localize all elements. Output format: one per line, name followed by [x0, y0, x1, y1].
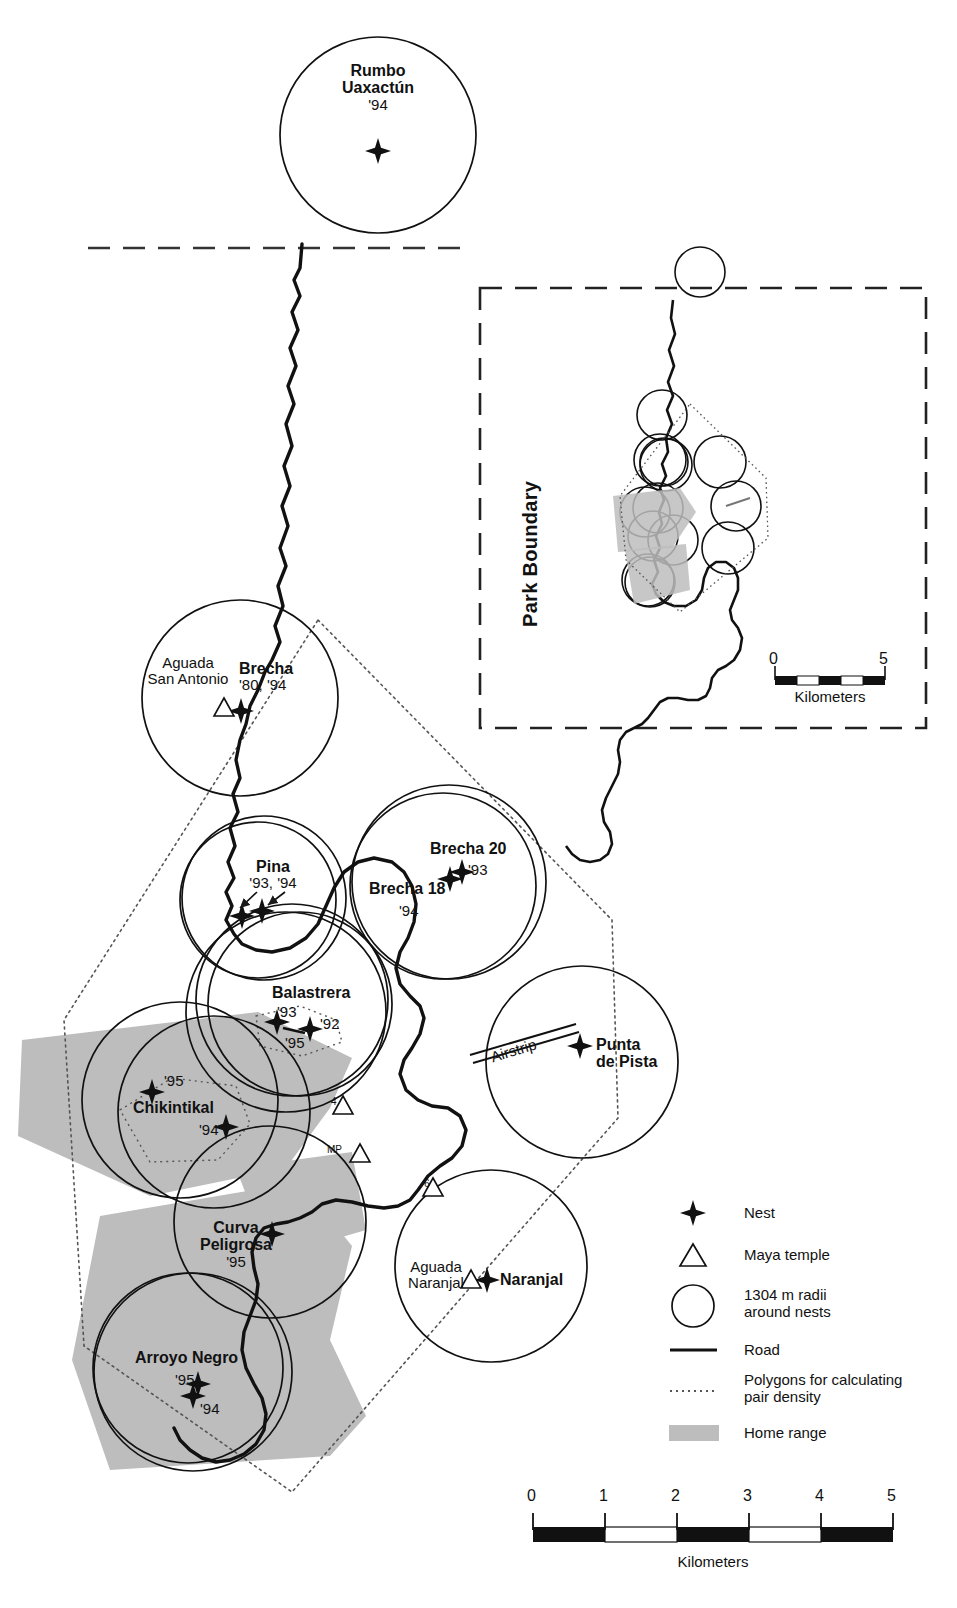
legend-label-polygons: Polygons for calculating pair density — [744, 1371, 902, 1406]
maya-temple-icon — [214, 698, 234, 716]
site-name-punta-line2: de Pista — [596, 1053, 657, 1070]
map-figure: Rumbo Uaxactún '94 Aguada San Antonio Br… — [0, 0, 957, 1608]
main-scale-tick-3: 3 — [743, 1487, 752, 1504]
site-year-pina: '93, '94 — [218, 875, 328, 891]
legend-label-road: Road — [744, 1341, 780, 1358]
legend-symbols — [669, 1200, 719, 1441]
inset-scale-bar — [775, 666, 885, 685]
site-label-brecha: Brecha '80, '94 — [239, 660, 293, 693]
airstrip-line-inset — [726, 498, 750, 506]
main-scale-tick-4: 4 — [815, 1487, 824, 1504]
site-name-chikintikal: Chikintikal — [133, 1099, 214, 1116]
maya-temple-triangle-icon — [680, 1244, 706, 1266]
site-name-arroyo-negro: Arroyo Negro — [135, 1349, 238, 1366]
site-label-rumbo-uaxactun: Rumbo Uaxactún '94 — [318, 62, 438, 113]
site-year-curva: '95 — [191, 1254, 281, 1270]
site-name-naranjal: Naranjal — [500, 1271, 563, 1288]
site-name-rumbo-line2: Uaxactún — [318, 79, 438, 96]
site-name-curva-line2: Peligrosa — [191, 1236, 281, 1253]
legend-label-polygons-line1: Polygons for calculating — [744, 1371, 902, 1388]
main-scale-caption: Kilometers — [643, 1554, 783, 1570]
inset-scale-caption: Kilometers — [760, 689, 900, 705]
place-label-aguada-san-antonio: Aguada San Antonio — [133, 655, 243, 687]
main-scale-bar — [533, 1513, 893, 1542]
site-year-rumbo: '94 — [318, 97, 438, 113]
site-label-brecha-20: Brecha 20 — [430, 840, 507, 857]
aguada-naranjal-line1: Aguada — [401, 1259, 471, 1275]
main-scale-tick-1: 1 — [599, 1487, 608, 1504]
site-year-balastrera-92: '92 — [320, 1016, 340, 1032]
site-year-chikintikal-95: '95 — [164, 1073, 184, 1089]
legend-label-radii-line1: 1304 m radii — [744, 1286, 831, 1303]
main-scale-tick-2: 2 — [671, 1487, 680, 1504]
legend-label-nest: Nest — [744, 1204, 775, 1221]
temple-label-6: 6 — [424, 1179, 430, 1190]
place-label-aguada-naranjal: Aguada Naranjal — [401, 1259, 471, 1291]
park-boundary-label: Park Boundary — [519, 481, 542, 627]
temple-label-4: 4 — [331, 1097, 337, 1108]
aguada-san-antonio-line1: Aguada — [133, 655, 243, 671]
main-scale-tick-5: 5 — [887, 1487, 896, 1504]
site-year-balastrera-93: '93 — [277, 1004, 297, 1020]
legend-label-maya-temple: Maya temple — [744, 1246, 830, 1263]
radius-circle-icon — [672, 1285, 714, 1327]
site-year-brecha: '80, '94 — [239, 677, 293, 693]
site-label-punta-de-pista: Punta de Pista — [596, 1036, 657, 1071]
site-name-brecha: Brecha — [239, 660, 293, 677]
inset-map — [480, 247, 926, 862]
aguada-naranjal-line2: Naranjal — [401, 1275, 471, 1291]
main-scale-tick-0: 0 — [527, 1487, 536, 1504]
park-boundary-rect — [480, 288, 926, 728]
legend-label-home-range: Home range — [744, 1424, 827, 1441]
map-graphics — [0, 0, 957, 1608]
nest-star-icon — [680, 1200, 706, 1226]
site-year-arroyo-94: '94 — [200, 1401, 220, 1417]
site-name-brecha-18: Brecha 18 — [369, 880, 446, 897]
inset-scale-max: 5 — [879, 650, 888, 667]
site-name-rumbo-line1: Rumbo — [318, 62, 438, 79]
legend-label-radii: 1304 m radii around nests — [744, 1286, 831, 1321]
site-year-brecha-20: '93 — [468, 862, 488, 878]
site-label-pina: Pina '93, '94 — [218, 858, 328, 891]
site-name-curva-line1: Curva — [191, 1219, 281, 1236]
site-label-curva-peligrosa: Curva Peligrosa '95 — [191, 1219, 281, 1270]
site-name-balastrera: Balastrera — [272, 984, 350, 1001]
maya-temple-icon — [350, 1144, 370, 1162]
aguada-san-antonio-line2: San Antonio — [133, 671, 243, 687]
legend-label-polygons-line2: pair density — [744, 1388, 902, 1405]
inset-scale-min: 0 — [769, 650, 778, 667]
legend-label-radii-line2: around nests — [744, 1303, 831, 1320]
site-year-arroyo-95: '95 — [175, 1372, 195, 1388]
circle-brecha — [142, 600, 338, 796]
site-label-brecha-18: Brecha 18 — [369, 880, 446, 897]
site-year-chikintikal-94: '94 — [199, 1122, 219, 1138]
temple-label-mp: MP — [327, 1145, 342, 1156]
site-name-pina: Pina — [218, 858, 328, 875]
site-year-brecha-18: '94 — [399, 903, 419, 919]
site-name-punta-line1: Punta — [596, 1036, 657, 1053]
site-year-balastrera-95: '95 — [285, 1035, 305, 1051]
site-name-brecha-20: Brecha 20 — [430, 840, 507, 857]
home-range-swatch-icon — [669, 1425, 719, 1441]
